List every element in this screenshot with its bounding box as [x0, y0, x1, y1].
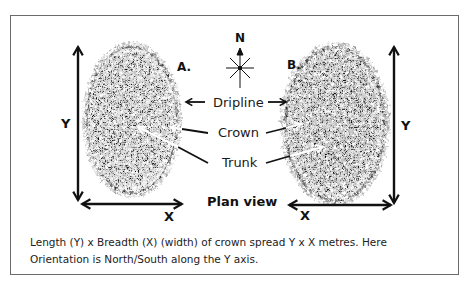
north-label: N: [235, 32, 245, 44]
trunk-label: Trunk: [222, 156, 257, 169]
tree-a-canopy: [82, 42, 182, 198]
tree-a-label: A.: [177, 61, 191, 73]
tree-a-x-label: X: [164, 210, 174, 223]
crown-label: Crown: [218, 126, 259, 139]
compass-icon: [226, 48, 254, 88]
caption-line-1: Length (Y) x Breadth (X) (width) of crow…: [30, 234, 450, 251]
dripline-label: Dripline: [213, 96, 264, 109]
caption: Length (Y) x Breadth (X) (width) of crow…: [30, 234, 450, 268]
tree-b-y-label: Y: [401, 119, 410, 132]
plan-view-title: Plan view: [207, 195, 277, 208]
caption-line-2: Orientation is North/South along the Y a…: [30, 251, 450, 268]
tree-b-x-label: X: [300, 209, 310, 222]
tree-b-label: B.: [287, 59, 301, 71]
tree-a-y-label: Y: [61, 117, 70, 130]
